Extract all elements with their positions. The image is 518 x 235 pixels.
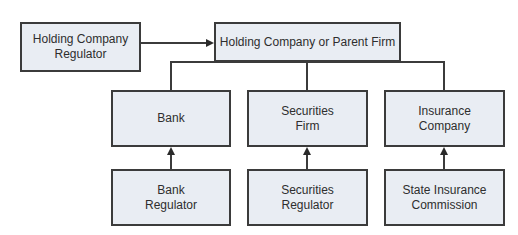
bank-label: Bank — [157, 111, 184, 126]
insurance-branch-connector — [443, 61, 445, 91]
parent-firm-label: Holding Company or Parent Firm — [220, 35, 395, 50]
bank-regulator-box: Bank Regulator — [111, 169, 231, 226]
arrow-right-icon — [206, 39, 214, 47]
bank-branch-connector — [170, 61, 172, 91]
securities-regulator-label: Securities Regulator — [281, 183, 334, 213]
state-insurance-commission-box: State Insurance Commission — [384, 169, 505, 226]
insurance-regulator-connector — [443, 154, 445, 169]
parent-firm-box: Holding Company or Parent Firm — [214, 22, 401, 62]
securities-regulator-box: Securities Regulator — [247, 169, 368, 226]
securities-firm-label: Securities Firm — [281, 104, 334, 134]
insurance-company-label: Insurance Company — [418, 104, 471, 134]
state-insurance-commission-label: State Insurance Commission — [402, 183, 486, 213]
securities-branch-connector — [306, 61, 308, 91]
bank-regulator-connector — [170, 154, 172, 169]
securities-regulator-connector — [306, 154, 308, 169]
arrow-up-icon — [440, 147, 448, 155]
insurance-company-box: Insurance Company — [384, 90, 505, 147]
arrow-up-icon — [167, 147, 175, 155]
bank-box: Bank — [111, 90, 231, 147]
arrow-up-icon — [303, 147, 311, 155]
holding-company-regulator-label: Holding Company Regulator — [33, 32, 128, 62]
regulator-to-parent-connector — [141, 42, 207, 44]
securities-firm-box: Securities Firm — [247, 90, 368, 147]
bank-regulator-label: Bank Regulator — [145, 183, 197, 213]
holding-company-regulator-box: Holding Company Regulator — [20, 22, 141, 72]
